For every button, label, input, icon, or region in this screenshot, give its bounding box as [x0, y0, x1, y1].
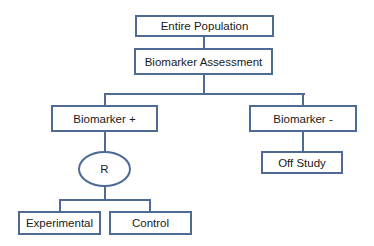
node-off-study: Off Study [261, 151, 343, 174]
node-randomization: R [78, 151, 131, 187]
node-label: Off Study [278, 157, 326, 169]
connector-assessment-down [203, 74, 205, 95]
node-label: R [100, 163, 108, 175]
node-label: Biomarker + [73, 113, 135, 125]
connector-branch-horizontal [104, 93, 305, 95]
node-label: Experimental [26, 217, 93, 229]
node-label: Biomarker Assessment [145, 56, 263, 68]
node-biomarker-positive: Biomarker + [51, 105, 158, 132]
node-label: Biomarker - [273, 113, 332, 125]
node-biomarker-assessment: Biomarker Assessment [134, 48, 273, 75]
node-label: Control [132, 217, 169, 229]
node-control: Control [109, 211, 192, 235]
connector-negative-to-offstudy [302, 131, 304, 152]
connector-r-branch-horizontal [59, 199, 151, 201]
connector-positive-to-r [104, 131, 106, 152]
node-entire-population: Entire Population [135, 15, 274, 37]
node-label: Entire Population [161, 20, 249, 32]
node-biomarker-negative: Biomarker - [249, 105, 357, 132]
node-experimental: Experimental [18, 211, 101, 235]
